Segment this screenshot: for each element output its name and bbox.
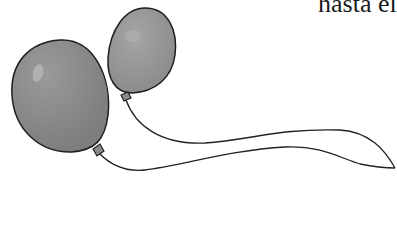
string-right-balloon	[126, 100, 395, 168]
balloons-illustration	[0, 0, 397, 228]
balloon-right	[108, 8, 176, 101]
string-left-balloon	[98, 147, 395, 171]
balloon-left	[12, 40, 109, 156]
